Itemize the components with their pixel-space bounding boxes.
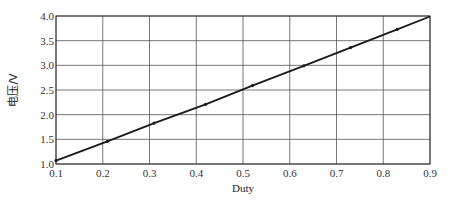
data-point-marker <box>54 159 57 162</box>
y-tick-label: 4.0 <box>40 10 54 22</box>
x-tick-label: 0.4 <box>189 167 203 179</box>
data-point-marker <box>302 64 305 67</box>
line-chart: 0.10.20.30.40.50.60.70.80.9 1.01.52.02.5… <box>0 0 449 208</box>
x-tick-label: 0.5 <box>236 167 250 179</box>
y-tick-label: 3.5 <box>40 35 54 47</box>
x-tick-label: 0.3 <box>143 167 157 179</box>
data-point-marker <box>349 46 352 49</box>
data-point-marker <box>106 140 109 143</box>
y-tick-label: 2.5 <box>40 84 54 96</box>
x-tick-labels: 0.10.20.30.40.50.60.70.80.9 <box>49 167 437 179</box>
y-tick-label: 3.0 <box>40 59 54 71</box>
data-point-marker <box>396 28 399 31</box>
y-tick-label: 1.0 <box>40 158 54 170</box>
y-tick-label: 2.0 <box>40 109 54 121</box>
x-tick-label: 0.9 <box>423 167 437 179</box>
data-point-marker <box>251 84 254 87</box>
data-series <box>54 16 430 162</box>
x-tick-label: 0.2 <box>96 167 110 179</box>
x-axis-title: Duty <box>232 182 255 194</box>
x-tick-label: 0.7 <box>330 167 344 179</box>
data-point-marker <box>153 121 156 124</box>
x-tick-label: 0.6 <box>283 167 297 179</box>
data-point-marker <box>204 103 207 106</box>
y-axis-title: 电压/V <box>7 73 20 107</box>
y-tick-labels: 1.01.52.02.53.03.54.0 <box>40 10 54 170</box>
y-tick-label: 1.5 <box>40 133 54 145</box>
x-tick-label: 0.8 <box>376 167 390 179</box>
